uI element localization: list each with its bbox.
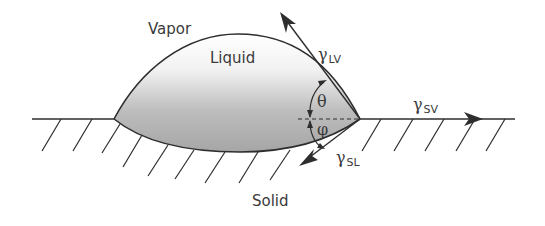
gamma-sl-label: γSL	[336, 150, 360, 166]
gamma-lv-symbol: γ	[318, 45, 328, 64]
gamma-lv-subscript: LV	[329, 53, 341, 66]
liquid-label: Liquid	[210, 51, 255, 66]
gamma-sl-subscript: SL	[347, 156, 360, 169]
gamma-sv-label: γSV	[413, 97, 438, 113]
solid-label: Solid	[252, 194, 289, 209]
wetting-diagram: Vapor Liquid Solid γLV γSV γSL θ φ	[0, 0, 545, 226]
gamma-lv-label: γLV	[318, 47, 341, 63]
phi-label: φ	[317, 122, 328, 138]
gamma-sl-symbol: γ	[336, 148, 346, 167]
vapor-label: Vapor	[148, 22, 191, 37]
gamma-sv-symbol: γ	[413, 95, 423, 114]
theta-label: θ	[317, 94, 327, 110]
gamma-sv-subscript: SV	[424, 103, 439, 116]
